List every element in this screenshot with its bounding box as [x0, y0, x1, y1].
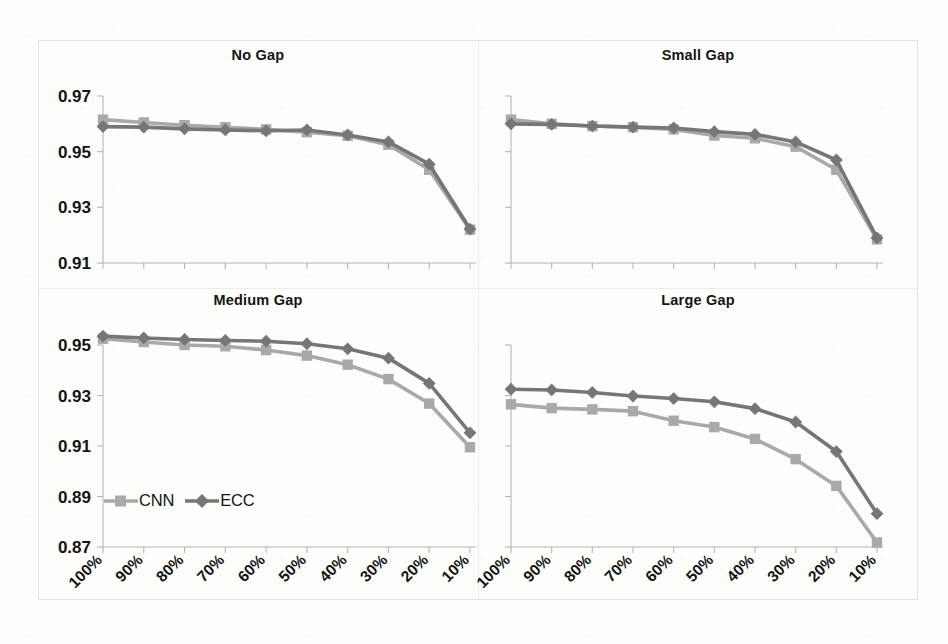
- data-point-cnn: [790, 454, 800, 464]
- x-tick-label: 10%: [845, 551, 879, 585]
- y-tick-label: 0.89: [58, 488, 91, 507]
- plot-area-small-gap: [479, 41, 917, 288]
- plot-area-no-gap: 0.910.930.950.97: [38, 41, 478, 288]
- data-point-cnn: [831, 481, 841, 491]
- x-tick-label: 40%: [723, 551, 757, 585]
- x-tick-label: 20%: [804, 551, 838, 585]
- y-tick-label: 0.95: [58, 143, 91, 162]
- data-point-ecc: [708, 395, 721, 408]
- data-point-cnn: [628, 406, 638, 416]
- legend-item-ecc: ECC: [185, 491, 254, 510]
- legend-cnn-marker-icon: [104, 493, 138, 509]
- y-tick-label: 0.93: [58, 387, 91, 406]
- plot-area-large-gap: 100%90%80%70%60%50%40%30%20%10%: [479, 289, 917, 599]
- x-tick-label: 70%: [601, 551, 635, 585]
- y-tick-label: 0.95: [58, 336, 91, 355]
- data-point-ecc: [749, 402, 762, 415]
- legend-label-ecc: ECC: [220, 491, 254, 510]
- data-point-ecc: [545, 384, 558, 397]
- data-point-cnn: [506, 399, 516, 409]
- data-point-cnn: [709, 422, 719, 432]
- x-tick-label: 30%: [764, 551, 798, 585]
- panel-small-gap: Small Gap: [479, 41, 917, 288]
- series-line-ecc: [511, 124, 877, 238]
- data-point-ecc: [505, 383, 518, 396]
- series-line-cnn: [511, 404, 877, 542]
- panel-medium-gap: Medium Gap 0.870.890.910.930.95100%90%80…: [38, 289, 478, 599]
- x-tick-label: 10%: [438, 551, 472, 585]
- data-point-ecc: [341, 342, 354, 355]
- data-point-ecc: [830, 154, 843, 167]
- series-line-ecc: [103, 127, 470, 229]
- data-point-ecc: [300, 337, 313, 350]
- data-point-ecc: [667, 392, 680, 405]
- data-point-cnn: [750, 434, 760, 444]
- data-point-cnn: [668, 416, 678, 426]
- series-line-ecc: [103, 336, 470, 433]
- data-point-cnn: [546, 403, 556, 413]
- x-tick-label: 90%: [112, 551, 146, 585]
- data-point-cnn: [872, 537, 882, 547]
- y-tick-label: 0.97: [58, 87, 91, 106]
- y-tick-label: 0.93: [58, 198, 91, 217]
- figure-canvas: No Gap 0.910.930.950.97 Small Gap Medium…: [0, 0, 948, 644]
- x-tick-label: 50%: [275, 551, 309, 585]
- legend-label-cnn: CNN: [139, 491, 174, 510]
- data-point-cnn: [424, 398, 434, 408]
- y-tick-label: 0.87: [58, 538, 91, 557]
- x-tick-label: 70%: [193, 551, 227, 585]
- x-tick-label: 90%: [520, 551, 554, 585]
- series-line-cnn: [103, 120, 470, 230]
- legend-ecc-marker-icon: [185, 493, 219, 509]
- x-tick-label: 80%: [153, 551, 187, 585]
- x-tick-label: 40%: [316, 551, 350, 585]
- data-point-ecc: [627, 390, 640, 403]
- data-point-cnn: [587, 404, 597, 414]
- series-line-cnn: [103, 339, 470, 448]
- panel-large-gap: Large Gap 100%90%80%70%60%50%40%30%20%10…: [479, 289, 917, 599]
- y-tick-label: 0.91: [58, 437, 91, 456]
- panel-no-gap: No Gap 0.910.930.950.97: [38, 41, 478, 288]
- chart-legend: CNN ECC: [104, 491, 254, 510]
- x-tick-label: 60%: [234, 551, 268, 585]
- data-point-cnn: [383, 374, 393, 384]
- x-tick-label: 50%: [682, 551, 716, 585]
- x-tick-label: 60%: [642, 551, 676, 585]
- series-line-cnn: [511, 120, 877, 240]
- data-point-ecc: [586, 386, 599, 399]
- data-point-cnn: [342, 359, 352, 369]
- data-point-cnn: [302, 350, 312, 360]
- plot-area-medium-gap: 0.870.890.910.930.95100%90%80%70%60%50%4…: [38, 289, 478, 599]
- x-tick-label: 80%: [560, 551, 594, 585]
- x-tick-label: 100%: [473, 551, 513, 591]
- legend-item-cnn: CNN: [104, 491, 174, 510]
- y-tick-label: 0.91: [58, 254, 91, 273]
- x-tick-label: 20%: [397, 551, 431, 585]
- data-point-cnn: [465, 442, 475, 452]
- x-tick-label: 30%: [357, 551, 391, 585]
